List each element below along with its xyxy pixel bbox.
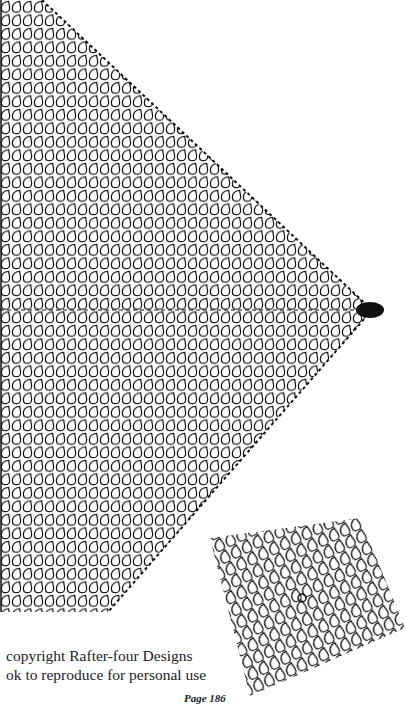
page-number: Page 186 xyxy=(184,692,226,704)
copyright-line-2: ok to reproduce for personal use xyxy=(6,665,206,684)
stitch-motif-square xyxy=(200,518,406,698)
copyright-notice: copyright Rafter-four Designs ok to repr… xyxy=(6,646,206,684)
copyright-line-1: copyright Rafter-four Designs xyxy=(6,646,206,665)
chart-apex-cluster xyxy=(356,302,384,318)
